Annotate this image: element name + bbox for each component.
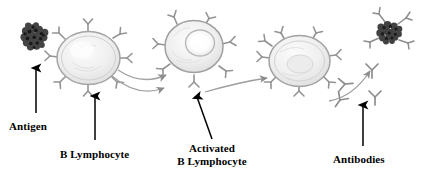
label-b-lymphocyte: B Lymphocyte — [60, 148, 129, 161]
label-arrow-activated — [197, 97, 212, 139]
process-arrow-2 — [205, 78, 267, 92]
label-activated-line1: Activated — [162, 142, 262, 155]
antibody-icon-3 — [338, 77, 353, 90]
b-lymphocyte-activated — [257, 27, 341, 97]
antigen-clump-icon — [20, 22, 48, 50]
process-arrow-3 — [329, 71, 370, 101]
figure-canvas: Antigen B Lymphocyte Activated B Lymphoc… — [0, 0, 421, 178]
label-activated-line2: B Lymphocyte — [162, 155, 262, 168]
process-arrow-1 — [118, 70, 166, 79]
b-lymphocyte-resting — [45, 19, 132, 96]
label-antigen: Antigen — [9, 120, 47, 133]
antibody-icon-2 — [369, 91, 381, 105]
antigen-antibody-complex — [364, 8, 414, 50]
label-antibodies: Antibodies — [333, 153, 385, 166]
antibody-icon-1 — [366, 64, 378, 78]
